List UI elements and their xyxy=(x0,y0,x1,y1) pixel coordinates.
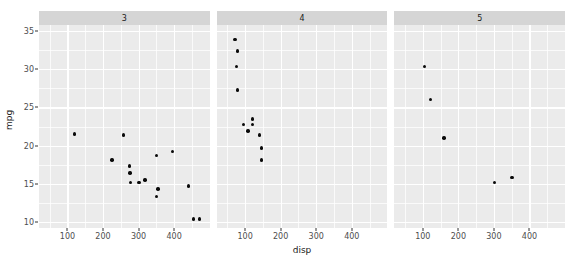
gridline-major-horizontal xyxy=(39,31,210,32)
panel-plot-area xyxy=(39,25,210,228)
gridline-major-horizontal xyxy=(394,222,565,223)
x-tick-label: 300 xyxy=(309,232,324,241)
y-axis-title-text: mpg xyxy=(4,110,14,130)
panel-x-axis: 100200300400 xyxy=(39,228,210,244)
x-tick-label: 200 xyxy=(451,232,466,241)
data-point xyxy=(128,171,131,174)
gridline-major-vertical xyxy=(529,25,530,228)
gridline-minor-vertical xyxy=(50,25,51,228)
x-tick-mark xyxy=(422,228,423,231)
x-tick-mark xyxy=(280,228,281,231)
data-point xyxy=(260,158,263,161)
x-tick-mark xyxy=(316,228,317,231)
y-tick-label: 15 xyxy=(24,179,34,188)
gridline-major-vertical xyxy=(139,25,140,228)
y-axis-title: mpg xyxy=(2,0,16,240)
gridline-major-horizontal xyxy=(394,31,565,32)
x-tick-mark xyxy=(174,228,175,231)
x-tick-label: 200 xyxy=(95,232,110,241)
gridline-minor-horizontal xyxy=(39,88,210,89)
gridline-major-vertical xyxy=(423,25,424,228)
facet-panels: 345 xyxy=(39,11,565,228)
x-tick-mark xyxy=(458,228,459,231)
x-tick-label: 100 xyxy=(415,232,430,241)
scatter-plot-figure: mpg 101520253035 345 1002003004001002003… xyxy=(0,0,569,272)
y-tick-mark xyxy=(35,31,38,32)
panel-plot-area xyxy=(394,25,565,228)
x-tick-label: 400 xyxy=(166,232,181,241)
gridline-major-horizontal xyxy=(39,222,210,223)
gridline-major-horizontal xyxy=(39,146,210,147)
y-axis-ticks: 101520253035 xyxy=(16,0,38,272)
x-tick-mark xyxy=(67,228,68,231)
gridline-minor-vertical xyxy=(476,25,477,228)
y-tick-mark xyxy=(35,107,38,108)
gridline-major-vertical xyxy=(174,25,175,228)
gridline-major-vertical xyxy=(245,25,246,228)
gridline-minor-vertical xyxy=(263,25,264,228)
gridline-minor-horizontal xyxy=(217,127,388,128)
data-point xyxy=(73,132,76,135)
gridline-minor-vertical xyxy=(370,25,371,228)
data-point xyxy=(429,98,432,101)
panel-x-axis: 100200300400 xyxy=(394,228,565,244)
gridline-major-horizontal xyxy=(217,31,388,32)
gridline-minor-vertical xyxy=(121,25,122,228)
gridline-major-horizontal xyxy=(217,184,388,185)
data-point xyxy=(198,217,201,220)
data-point xyxy=(187,184,190,187)
y-tick-label: 35 xyxy=(24,27,34,36)
data-point xyxy=(110,158,113,161)
gridline-major-horizontal xyxy=(217,69,388,70)
gridline-major-horizontal xyxy=(394,146,565,147)
gridline-minor-horizontal xyxy=(394,127,565,128)
data-point xyxy=(251,117,254,120)
x-tick-mark xyxy=(103,228,104,231)
gridline-major-vertical xyxy=(494,25,495,228)
gridline-minor-vertical xyxy=(227,25,228,228)
data-point xyxy=(233,38,236,41)
gridline-major-horizontal xyxy=(394,107,565,108)
gridline-minor-horizontal xyxy=(39,203,210,204)
gridline-major-horizontal xyxy=(394,184,565,185)
data-point xyxy=(192,217,195,220)
facet-panel-5: 5 xyxy=(394,11,565,228)
gridline-minor-horizontal xyxy=(394,88,565,89)
y-tick-label: 20 xyxy=(24,141,34,150)
data-point xyxy=(423,65,426,68)
x-tick-label: 400 xyxy=(344,232,359,241)
data-point xyxy=(128,164,131,167)
x-tick-mark xyxy=(529,228,530,231)
gridline-major-vertical xyxy=(67,25,68,228)
panel-x-axis: 100200300400 xyxy=(217,228,388,244)
x-tick-mark xyxy=(245,228,246,231)
data-point xyxy=(510,176,513,179)
gridline-major-vertical xyxy=(281,25,282,228)
gridline-minor-vertical xyxy=(547,25,548,228)
y-tick-label: 10 xyxy=(24,217,34,226)
data-point xyxy=(236,49,239,52)
gridline-minor-horizontal xyxy=(394,203,565,204)
facet-panel-4: 4 xyxy=(217,11,388,228)
gridline-minor-vertical xyxy=(192,25,193,228)
x-tick-label: 200 xyxy=(273,232,288,241)
data-point xyxy=(258,133,261,136)
data-point xyxy=(155,195,158,198)
facet-strip-label: 4 xyxy=(217,11,388,25)
y-tick-label: 30 xyxy=(24,65,34,74)
gridline-minor-horizontal xyxy=(394,50,565,51)
gridline-major-horizontal xyxy=(39,69,210,70)
gridline-major-horizontal xyxy=(39,107,210,108)
gridline-minor-horizontal xyxy=(217,88,388,89)
data-point xyxy=(129,181,132,184)
data-point xyxy=(235,65,238,68)
y-tick-mark xyxy=(35,221,38,222)
facet-strip-label: 3 xyxy=(39,11,210,25)
x-tick-mark xyxy=(138,228,139,231)
x-tick-mark xyxy=(493,228,494,231)
gridline-minor-vertical xyxy=(405,25,406,228)
gridline-minor-horizontal xyxy=(217,165,388,166)
x-tick-label: 100 xyxy=(60,232,75,241)
data-point xyxy=(137,181,140,184)
gridline-minor-vertical xyxy=(85,25,86,228)
